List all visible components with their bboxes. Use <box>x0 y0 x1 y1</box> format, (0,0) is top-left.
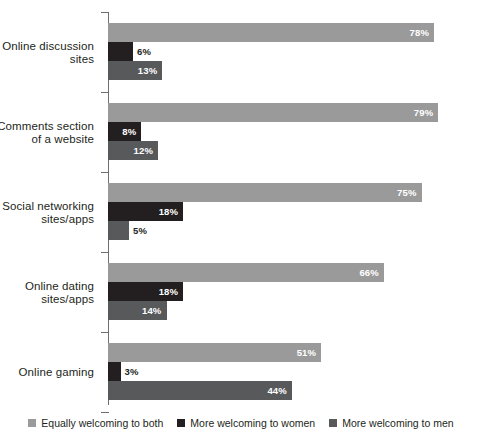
bar: 3% <box>108 362 121 381</box>
legend-swatch-icon <box>177 419 185 427</box>
bar: 51% <box>108 343 321 362</box>
legend-swatch-icon <box>28 419 36 427</box>
bar-value-label: 75% <box>397 187 422 198</box>
category-label: Social networkingsites/apps <box>0 200 94 227</box>
bar: 66% <box>108 263 384 282</box>
bar: 75% <box>108 183 422 202</box>
bar-value-label: 3% <box>121 366 139 377</box>
bar-group: Online discussionsites78%6%13% <box>0 12 482 92</box>
bar: 14% <box>108 301 167 320</box>
legend-swatch-icon <box>329 419 337 427</box>
category-label: Online discussionsites <box>0 40 94 67</box>
bar-value-label: 79% <box>414 107 439 118</box>
bar-group: Online gaming51%3%44% <box>0 332 482 412</box>
bar: 5% <box>108 221 129 240</box>
bar-value-label: 6% <box>133 46 151 57</box>
plot-area: Online discussionsites78%6%13%Comments s… <box>0 0 482 405</box>
bar: 78% <box>108 23 434 42</box>
chart-legend: Equally welcoming to bothMore welcoming … <box>0 410 482 435</box>
legend-item[interactable]: More welcoming to men <box>329 417 453 429</box>
bar-value-label: 51% <box>297 347 322 358</box>
bar-value-label: 44% <box>267 385 292 396</box>
bar: 18% <box>108 282 183 301</box>
bar-value-label: 13% <box>138 65 163 76</box>
bar-value-label: 18% <box>159 206 184 217</box>
bar: 6% <box>108 42 133 61</box>
bar: 8% <box>108 122 141 141</box>
legend-label: Equally welcoming to both <box>41 417 163 429</box>
bar-value-label: 14% <box>142 305 167 316</box>
bar: 12% <box>108 141 158 160</box>
bar-value-label: 12% <box>134 145 159 156</box>
bar-value-label: 8% <box>122 126 141 137</box>
bar-group: Online datingsites/apps66%18%14% <box>0 252 482 332</box>
bar: 13% <box>108 61 162 80</box>
legend-item[interactable]: More welcoming to women <box>177 417 315 429</box>
category-label: Comments sectionof a website <box>0 120 94 147</box>
bar: 79% <box>108 103 438 122</box>
category-label: Online gaming <box>0 366 94 380</box>
bar-value-label: 5% <box>129 225 147 236</box>
bar-value-label: 78% <box>410 27 435 38</box>
bar-group: Comments sectionof a website79%8%12% <box>0 92 482 172</box>
category-label: Online datingsites/apps <box>0 280 94 307</box>
horizontal-bar-chart: Online discussionsites78%6%13%Comments s… <box>0 0 482 435</box>
bar: 18% <box>108 202 183 221</box>
legend-label: More welcoming to men <box>342 417 453 429</box>
legend-item[interactable]: Equally welcoming to both <box>28 417 163 429</box>
bar-value-label: 18% <box>159 286 184 297</box>
bar: 44% <box>108 381 292 400</box>
bar-group: Social networkingsites/apps75%18%5% <box>0 172 482 252</box>
legend-label: More welcoming to women <box>190 417 315 429</box>
bar-value-label: 66% <box>359 267 384 278</box>
